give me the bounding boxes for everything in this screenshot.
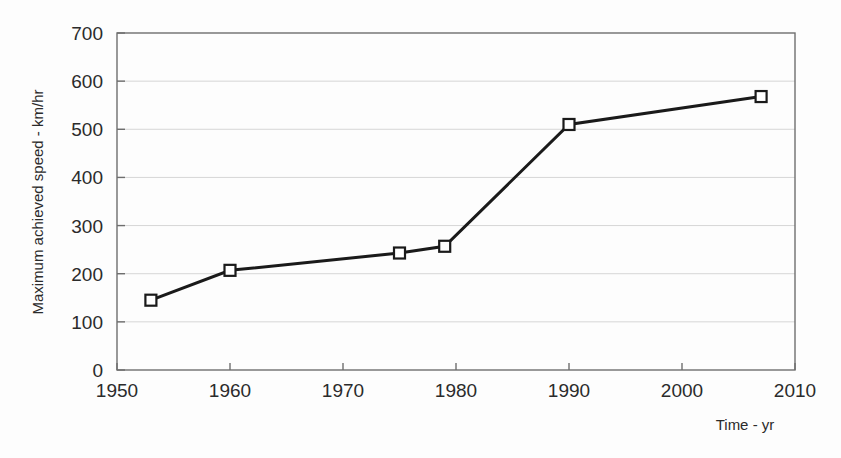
line-chart: 0100200300400500600700 19501960197019801… [0,0,841,458]
x-axis-title: Time - yr [716,416,775,433]
chart-page: 0100200300400500600700 19501960197019801… [0,0,841,458]
y-tick-label-700: 700 [71,23,103,44]
data-point-marker [439,241,450,252]
y-axis-title: Maximum achieved speed - km/hr [29,89,46,314]
x-tick-label-1990: 1990 [548,380,590,401]
x-tick-label-1970: 1970 [322,380,364,401]
x-tick-label-1980: 1980 [435,380,477,401]
y-tick-label-300: 300 [71,216,103,237]
x-tick-label-2000: 2000 [661,380,703,401]
data-point-marker [145,295,156,306]
y-tick-label-500: 500 [71,119,103,140]
x-tick-label-1960: 1960 [209,380,251,401]
data-point-marker [225,265,236,276]
data-point-marker [394,248,405,259]
y-tick-label-400: 400 [71,167,103,188]
x-tick-label-1950: 1950 [96,380,138,401]
y-tick-label-600: 600 [71,71,103,92]
data-point-marker [564,119,575,130]
y-tick-label-200: 200 [71,264,103,285]
x-tick-label-2010: 2010 [774,380,816,401]
y-tick-label-0: 0 [92,360,103,381]
data-point-marker [756,91,767,102]
y-tick-label-100: 100 [71,312,103,333]
